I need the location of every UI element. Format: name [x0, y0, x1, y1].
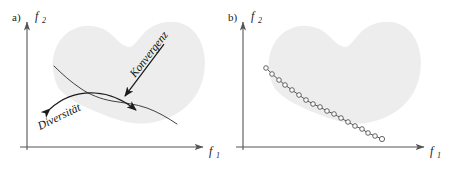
solution-point — [366, 131, 371, 136]
solution-point — [290, 88, 295, 93]
panel-a-letter: a) — [12, 11, 21, 24]
panel-b-x-axis-label: f 1 — [430, 144, 441, 160]
solution-point — [332, 112, 337, 117]
solution-point — [339, 116, 344, 121]
solution-point — [297, 93, 302, 98]
solution-point — [304, 98, 309, 103]
solution-point — [346, 120, 351, 125]
figure-container: a) Konvergenz Diversität f 2 f 1 b) — [0, 0, 468, 172]
solution-point — [311, 102, 316, 107]
panel-b-x-axis-label-subscript: 1 — [437, 151, 441, 160]
panel-a-x-axis-label-text: f — [209, 144, 214, 158]
solution-point — [277, 78, 282, 83]
panel-a-y-axis-label: f 2 — [35, 9, 46, 25]
solution-point — [318, 105, 323, 110]
panel-a-diversitaet-label: Diversität — [35, 100, 83, 132]
solution-point — [379, 136, 384, 141]
panel-b-x-axis-label-text: f — [430, 144, 435, 158]
panel-b-letter: b) — [228, 11, 238, 24]
solution-point — [360, 127, 365, 132]
panel-a-y-axis-label-text: f — [35, 9, 40, 23]
multiobjective-optimization-figure: a) Konvergenz Diversität f 2 f 1 b) — [0, 0, 468, 172]
solution-point — [373, 134, 378, 139]
panel-a-x-axis-label-subscript: 1 — [216, 151, 220, 160]
solution-point — [270, 72, 275, 77]
panel-a-y-axis-label-subscript: 2 — [42, 16, 46, 25]
panel-b-y-axis-label: f 2 — [251, 9, 262, 25]
panel-b-y-axis-label-text: f — [251, 9, 256, 23]
solution-point — [325, 109, 330, 114]
panel-b: b) f — [228, 9, 441, 160]
panel-a: a) Konvergenz Diversität f 2 f 1 — [12, 9, 220, 160]
solution-point — [353, 124, 358, 129]
panel-b-feasible-region — [269, 22, 421, 124]
panel-a-x-axis-label: f 1 — [209, 144, 220, 160]
solution-point — [283, 83, 288, 88]
panel-b-y-axis-label-subscript: 2 — [258, 16, 262, 25]
solution-point — [264, 66, 269, 71]
